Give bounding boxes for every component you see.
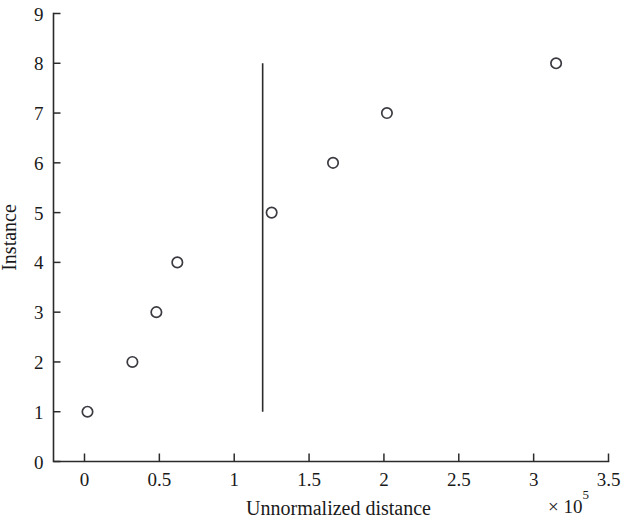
data-point-marker bbox=[551, 58, 561, 68]
x-axis-tick-label: 2 bbox=[379, 469, 389, 490]
scatter-plot-figure: 012345678900.511.522.533.5Unnormalized d… bbox=[0, 0, 628, 527]
plot-canvas: 012345678900.511.522.533.5Unnormalized d… bbox=[0, 0, 628, 527]
y-axis-tick-label: 7 bbox=[34, 103, 44, 124]
x-axis-multiplier-exponent: 5 bbox=[582, 487, 589, 502]
data-point-marker bbox=[382, 108, 392, 118]
x-axis-multiplier-base: × 10 bbox=[548, 496, 582, 517]
x-axis-tick-label: 3.5 bbox=[597, 469, 621, 490]
x-axis-tick-label: 3 bbox=[529, 469, 539, 490]
data-point-marker bbox=[151, 307, 161, 317]
x-axis-title: Unnormalized distance bbox=[246, 497, 431, 519]
axis-spines bbox=[54, 14, 609, 462]
data-point-marker bbox=[266, 207, 276, 217]
x-axis-tick-label: 1 bbox=[229, 469, 239, 490]
y-axis-tick-label: 3 bbox=[34, 302, 44, 323]
x-axis-multiplier: × 105 bbox=[548, 487, 589, 518]
y-axis-tick-label: 6 bbox=[34, 153, 44, 174]
y-axis-tick-label: 4 bbox=[34, 252, 44, 273]
data-point-marker bbox=[127, 357, 137, 367]
y-axis-tick-label: 2 bbox=[34, 352, 44, 373]
y-axis-tick-label: 8 bbox=[34, 53, 44, 74]
y-axis-title: Instance bbox=[0, 204, 20, 271]
x-axis-tick-label: 1.5 bbox=[297, 469, 321, 490]
x-axis-tick-label: 0.5 bbox=[147, 469, 171, 490]
data-point-marker bbox=[82, 407, 92, 417]
data-point-marker bbox=[172, 257, 182, 267]
y-axis-tick-label: 9 bbox=[34, 4, 44, 25]
data-point-marker bbox=[328, 158, 338, 168]
x-axis-tick-label: 2.5 bbox=[447, 469, 471, 490]
y-axis-tick-label: 0 bbox=[34, 452, 44, 473]
x-axis-tick-label: 0 bbox=[80, 469, 90, 490]
y-axis-tick-label: 5 bbox=[34, 203, 44, 224]
y-axis-tick-label: 1 bbox=[34, 402, 44, 423]
